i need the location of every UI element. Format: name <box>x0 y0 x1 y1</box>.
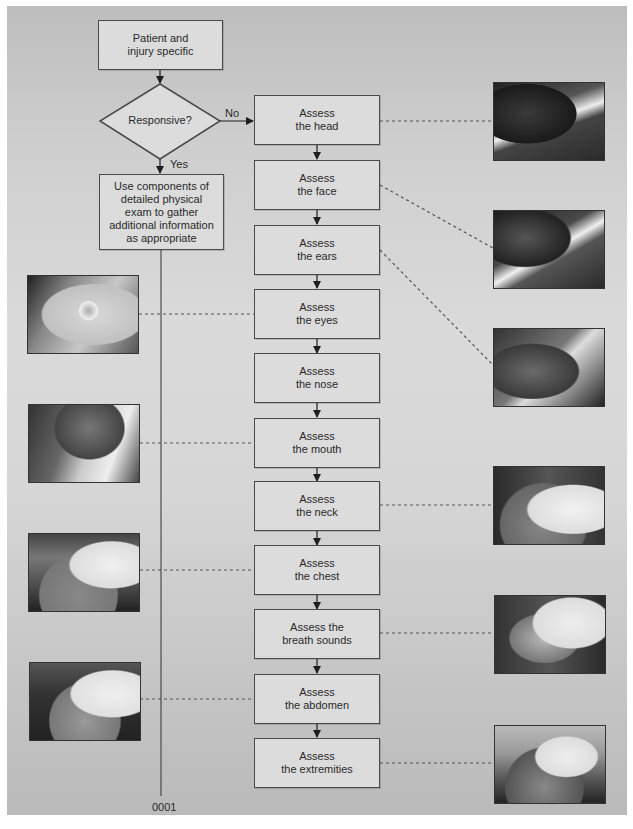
step-assess-neck: Assessthe neck <box>254 481 380 531</box>
photo-extremities-assessment <box>494 725 606 804</box>
step-line2: the neck <box>296 506 338 519</box>
step-line2: the extremities <box>281 763 353 776</box>
step-line1: Assess <box>296 301 338 314</box>
photo-neck-assessment <box>493 466 605 545</box>
step-line1: Assess <box>297 237 337 250</box>
step-line1: Assess <box>296 107 339 120</box>
branch-yes-label: Yes <box>170 158 188 170</box>
step-line2: the ears <box>297 250 337 263</box>
photo-eyes-assessment <box>27 275 139 354</box>
step-line1: Assess <box>296 365 338 378</box>
action-line: exam to gather <box>109 206 214 219</box>
figure-code: 0001 <box>152 801 176 813</box>
action-line: Use components of <box>109 180 214 193</box>
photo-face-assessment <box>493 210 605 289</box>
step-line2: the eyes <box>296 314 338 327</box>
step-line2: the chest <box>295 570 340 583</box>
step-assess-face: Assessthe face <box>254 160 380 210</box>
photo-ears-assessment <box>493 328 605 407</box>
step-assess-extremities: Assessthe extremities <box>254 738 380 788</box>
photo-breath-sounds-assessment <box>494 595 606 674</box>
step-line2: the abdomen <box>285 699 349 712</box>
start-box-line2: injury specific <box>127 45 193 58</box>
step-line1: Assess <box>296 493 338 506</box>
step-assess-nose: Assessthe nose <box>254 353 380 403</box>
action-line: additional information <box>109 219 214 232</box>
step-line2: breath sounds <box>282 634 352 647</box>
step-assess-breath-sounds: Assess thebreath sounds <box>254 609 380 659</box>
photo-head-assessment <box>493 82 605 161</box>
decision-label: Responsive? <box>100 114 220 126</box>
step-line1: Assess <box>295 557 340 570</box>
branch-no-label: No <box>225 107 239 119</box>
action-line: detailed physical <box>109 193 214 206</box>
step-line2: the nose <box>296 378 338 391</box>
step-assess-eyes: Assessthe eyes <box>254 289 380 339</box>
step-line2: the mouth <box>293 443 342 456</box>
step-assess-ears: Assessthe ears <box>254 225 380 275</box>
step-assess-abdomen: Assessthe abdomen <box>254 674 380 724</box>
responsive-action-box: Use components of detailed physical exam… <box>99 174 224 250</box>
step-line1: Assess <box>281 750 353 763</box>
step-line2: the face <box>297 185 336 198</box>
step-assess-mouth: Assessthe mouth <box>254 418 380 468</box>
start-box-line1: Patient and <box>127 32 193 45</box>
action-line: as appropriate <box>109 232 214 245</box>
step-assess-head: Assessthe head <box>254 95 380 145</box>
step-line1: Assess <box>293 430 342 443</box>
start-box: Patient and injury specific <box>98 20 223 70</box>
step-line1: Assess <box>297 172 336 185</box>
step-line1: Assess <box>285 686 349 699</box>
photo-abdomen-assessment <box>29 662 141 741</box>
step-line1: Assess the <box>282 621 352 634</box>
photo-mouth-assessment <box>28 404 140 483</box>
step-assess-chest: Assessthe chest <box>254 545 380 595</box>
step-line2: the head <box>296 120 339 133</box>
photo-chest-assessment <box>28 533 140 612</box>
